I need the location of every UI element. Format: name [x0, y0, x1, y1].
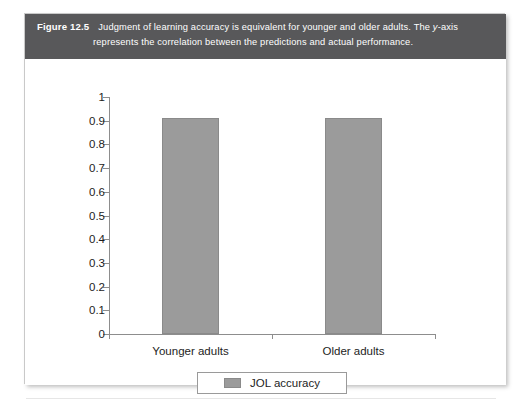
figure-caption-line-1: Figure 12.5Judgment of learning accuracy… [37, 19, 494, 35]
legend-swatch-jol-accuracy [224, 378, 241, 388]
y-axis-tick-label: 0.8 [35, 138, 109, 150]
y-axis-tick-label: 0.7 [35, 162, 109, 174]
chart-legend: JOL accuracy [197, 372, 347, 394]
page-scan-artifact [26, 398, 496, 399]
y-axis-tick-label: 0.2 [35, 281, 109, 293]
figure-caption-text-part-2: -axis [438, 22, 458, 32]
y-axis-tick-label: 0.5 [35, 210, 109, 222]
figure-caption-line-2: represents the correlation between the p… [37, 35, 494, 50]
y-axis-tick-label: 0.1 [35, 304, 109, 316]
figure-card: Figure 12.5Judgment of learning accuracy… [24, 13, 505, 384]
bar-older-adults[interactable] [325, 118, 381, 334]
y-axis-tick-label: 0.3 [35, 257, 109, 269]
y-axis-tick-label: 0 [35, 328, 109, 340]
y-axis-tick-label: 0.6 [35, 186, 109, 198]
x-axis-label-younger-adults: Younger adults [109, 345, 272, 357]
legend-label-jol-accuracy: JOL accuracy [250, 377, 320, 389]
bar-chart-plot-area: 10.90.80.70.60.50.40.30.20.10 Younger ad… [25, 59, 506, 385]
x-axis-label-older-adults: Older adults [272, 345, 435, 357]
x-axis-tick-mark [435, 334, 436, 339]
y-axis-line [109, 97, 110, 334]
bar-younger-adults[interactable] [162, 118, 218, 334]
figure-number-label: Figure 12.5 [37, 21, 89, 32]
y-axis-tick-label: 1 [35, 91, 109, 103]
y-axis-tick-label: 0.9 [35, 115, 109, 127]
x-axis-tick-mark [109, 334, 110, 339]
figure-caption-bar: Figure 12.5Judgment of learning accuracy… [25, 14, 506, 59]
y-axis-tick-label: 0.4 [35, 233, 109, 245]
x-axis-tick-mark [272, 334, 273, 339]
figure-caption-text-part-1: Judgment of learning accuracy is equival… [98, 22, 433, 32]
